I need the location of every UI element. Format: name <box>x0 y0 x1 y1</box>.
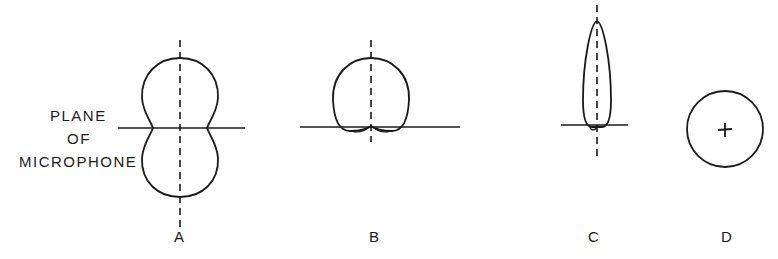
plane-label-line-2: OF <box>67 130 91 147</box>
figure-d-omnidirectional-pattern: D <box>687 91 763 245</box>
figure-b-label: B <box>369 228 379 245</box>
plane-label-line-3: MICROPHONE <box>19 153 137 170</box>
plane-of-microphone-label: PLANE OF MICROPHONE <box>19 107 137 170</box>
figure-c-main-lobe <box>583 21 611 127</box>
figure-b-cardioid-pattern: B <box>300 40 460 245</box>
figure-a-bidirectional-pattern: A <box>118 40 245 245</box>
figure-a-label: A <box>174 228 184 245</box>
figure-d-label: D <box>721 228 732 245</box>
plane-label-line-1: PLANE <box>50 107 107 124</box>
diagram-canvas: PLANE OF MICROPHONE A B C <box>0 0 778 259</box>
figure-c-directional-pattern: C <box>561 5 628 245</box>
figure-c-label: C <box>588 228 599 245</box>
